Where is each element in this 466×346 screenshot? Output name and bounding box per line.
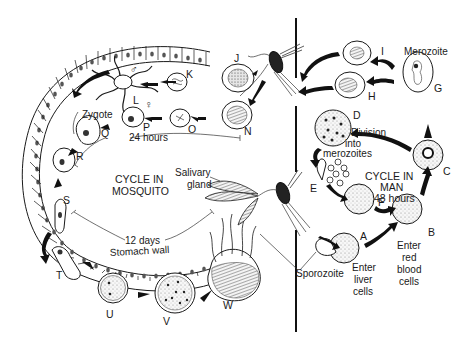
sporozoite-pointers: [260, 234, 316, 270]
stage-f: [344, 184, 374, 214]
label-j: J: [234, 52, 239, 64]
label-o: O: [188, 123, 196, 135]
label-c: C: [443, 165, 451, 177]
label-salivary: Salivary: [175, 167, 211, 178]
label-t: T: [56, 269, 63, 281]
arrow-v-to-w: [200, 290, 212, 302]
stage-e-merozoites: [317, 159, 349, 186]
label-i: I: [381, 45, 384, 57]
label-e: E: [310, 182, 317, 194]
label-n: N: [244, 125, 252, 137]
arrow-b-to-c: [420, 166, 432, 196]
arrow-r-to-s: [54, 178, 62, 188]
male-symbol: ♂: [130, 63, 138, 75]
stage-u: [98, 273, 128, 303]
label-zygote: Zygote: [82, 109, 113, 120]
stage-c-ring: [413, 140, 443, 170]
arrow-a-to-rbc: [364, 222, 398, 248]
label-u: U: [106, 308, 114, 320]
arrow-h-to-mosquito: [298, 86, 334, 96]
stage-p: [122, 107, 144, 127]
label-a: A: [360, 230, 367, 242]
stage-j: [222, 64, 254, 92]
label-w: W: [223, 299, 233, 311]
label-v: V: [163, 315, 170, 327]
label-h: H: [368, 90, 376, 102]
label-12-days: 12 days: [125, 235, 160, 246]
division-line1: Division: [351, 127, 386, 138]
rbc-line2: red: [402, 252, 416, 263]
malaria-life-cycle-diagram: J K L N O P Q R S T U V W A B C D E F G …: [0, 0, 466, 346]
label-merozoite: Merozoite: [404, 46, 448, 57]
label-b: B: [428, 226, 435, 238]
man-cycle-line3: 48 hours: [374, 192, 415, 204]
stage-i: [343, 41, 371, 65]
rbc-line3: blood: [397, 264, 421, 275]
mosquito-cycle-line2: MOSQUITO: [112, 185, 169, 197]
arrow-n-to-o: [190, 116, 198, 122]
arrow-e-to-f: [326, 184, 348, 202]
label-gland: gland: [187, 179, 211, 190]
arrow-c-to-g: [424, 124, 432, 138]
rbc-line4: cells: [399, 276, 419, 287]
label-s: S: [63, 194, 70, 206]
label-24-hours: 24 hours: [129, 132, 168, 143]
label-k: K: [186, 68, 193, 80]
label-q: Q: [101, 127, 109, 139]
label-r: R: [76, 150, 84, 162]
division-line3: merozoites: [323, 148, 372, 159]
arrow-g-to-i: [370, 56, 395, 70]
arrow-g-to-h: [366, 76, 394, 86]
stage-v-oocyst: [155, 273, 195, 313]
arrow-s-to-t: [40, 232, 52, 264]
label-g: G: [434, 82, 442, 94]
stage-h: [335, 72, 365, 98]
liver-line2: liver: [354, 274, 373, 285]
arrow-u-to-v: [138, 292, 150, 298]
mosquito-cycle-line1: CYCLE IN: [115, 173, 163, 185]
label-d: D: [353, 109, 361, 121]
label-stomach-wall: Stomach wall: [110, 244, 170, 258]
arrow-j-to-l: [160, 80, 168, 84]
stage-w-mature-oocyst: [208, 214, 260, 301]
stage-o: [170, 109, 190, 127]
rbc-line1: Enter: [397, 240, 422, 251]
mosquito-lower-icon: [258, 170, 310, 236]
liver-line3: cells: [353, 286, 373, 297]
liver-line1: Enter: [352, 262, 377, 273]
label-sporozoite: Sporozoite: [296, 268, 344, 279]
label-l: L: [133, 94, 139, 106]
arrow-i-to-mosquito: [300, 52, 340, 82]
female-symbol: ♀: [145, 98, 153, 110]
stage-g-merozoite: [403, 52, 433, 92]
